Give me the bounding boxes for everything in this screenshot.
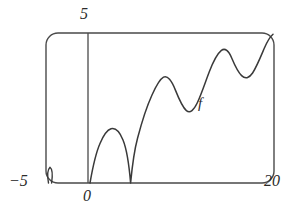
y-axis-max-label: 5	[80, 6, 88, 22]
plot-frame	[46, 33, 274, 183]
plot-canvas	[0, 0, 297, 211]
x-axis-max-label: 20	[264, 173, 280, 189]
function-graph-figure: 5 −5 0 20 f	[0, 0, 297, 211]
curve-label-f: f	[198, 96, 202, 111]
x-axis-min-label: 0	[83, 188, 91, 204]
function-curve-f	[90, 34, 273, 183]
y-axis-min-label: −5	[9, 173, 28, 189]
